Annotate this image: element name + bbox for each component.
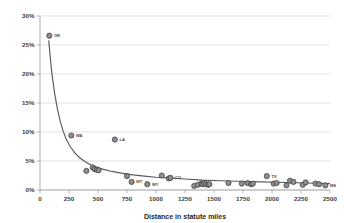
trend-curve-group xyxy=(49,40,330,183)
data-point xyxy=(124,173,129,178)
data-point-label: OR xyxy=(54,33,60,38)
data-point xyxy=(239,181,244,186)
x-tick-label: 2000 xyxy=(265,195,279,202)
data-point xyxy=(303,180,308,185)
x-tick-label: 1250 xyxy=(178,195,192,202)
x-axis-tick-labels: 02505007501000125015001750200022502500 xyxy=(38,195,337,202)
y-axis-tick-labels: 0%5%10%15%20%25%30% xyxy=(22,12,35,193)
data-point-label: MT xyxy=(136,179,142,184)
data-point xyxy=(250,181,255,186)
y-tick-label: 25% xyxy=(22,41,35,48)
data-point xyxy=(316,182,321,187)
x-tick-label: 0 xyxy=(38,195,42,202)
data-point-label: CO xyxy=(175,175,182,180)
y-tick-label: 5% xyxy=(26,157,35,164)
x-tick-label: 500 xyxy=(93,195,104,202)
data-point-label: LA xyxy=(119,137,125,142)
data-point xyxy=(168,175,173,180)
data-point xyxy=(284,183,289,188)
x-tick-label: 2250 xyxy=(294,195,308,202)
data-point xyxy=(84,168,89,173)
data-points-group xyxy=(47,33,328,188)
x-tick-label: 1750 xyxy=(236,195,250,202)
point-labels-group: ORWALAMTWYCOTXMS xyxy=(54,33,336,188)
data-point-label: TX xyxy=(271,174,277,179)
data-point xyxy=(69,133,74,138)
y-tick-label: 30% xyxy=(22,12,35,19)
y-tick-label: 20% xyxy=(22,70,35,77)
x-axis-title: Distance in statute miles xyxy=(144,213,226,220)
data-point xyxy=(291,179,296,184)
gridlines-group xyxy=(40,16,330,190)
chart-canvas: 0%5%10%15%20%25%30% 02505007501000125015… xyxy=(0,0,344,223)
data-point-label: WA xyxy=(76,133,83,138)
data-point xyxy=(129,179,134,184)
data-point xyxy=(47,33,52,38)
x-tick-label: 1500 xyxy=(207,195,221,202)
y-tick-label: 15% xyxy=(22,99,35,106)
data-point-label: WY xyxy=(152,182,159,187)
data-point-label: MS xyxy=(330,183,336,188)
x-tick-label: 2500 xyxy=(323,195,337,202)
data-point xyxy=(145,182,150,187)
y-tick-label: 10% xyxy=(22,128,35,135)
data-point xyxy=(274,180,279,185)
x-tick-label: 1000 xyxy=(149,195,163,202)
x-tick-label: 250 xyxy=(64,195,75,202)
x-tick-label: 750 xyxy=(122,195,133,202)
data-point xyxy=(96,168,101,173)
scatter-chart: 0%5%10%15%20%25%30% 02505007501000125015… xyxy=(0,0,344,223)
data-point xyxy=(323,183,328,188)
data-point xyxy=(159,173,164,178)
data-point xyxy=(112,137,117,142)
data-point xyxy=(226,180,231,185)
data-point xyxy=(207,182,212,187)
axes-group xyxy=(37,16,330,193)
y-tick-label: 0% xyxy=(26,186,35,193)
data-point xyxy=(264,173,269,178)
trend-curve xyxy=(49,40,330,183)
